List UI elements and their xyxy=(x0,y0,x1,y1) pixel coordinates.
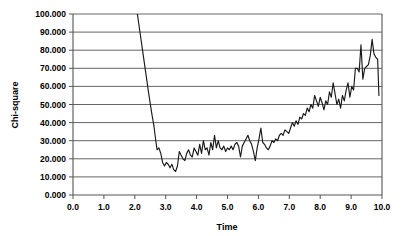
x-tick-label: 3.0 xyxy=(160,202,172,212)
x-tick-label: 10.0 xyxy=(374,202,391,212)
x-tick-label: 8.0 xyxy=(314,202,326,212)
y-axis-title: Chi-square xyxy=(10,81,20,128)
y-tick-label: 60.000 xyxy=(40,81,66,91)
x-tick-label: 1.0 xyxy=(98,202,110,212)
y-tick-label: 70.000 xyxy=(40,63,66,73)
y-tick-label: 20.000 xyxy=(40,154,66,164)
x-tick-label: 5.0 xyxy=(222,202,234,212)
chi-square-line-chart: 0.00010.00020.00030.00040.00050.00060.00… xyxy=(0,0,405,236)
x-tick-label: 2.0 xyxy=(129,202,141,212)
chart-container: 0.00010.00020.00030.00040.00050.00060.00… xyxy=(0,0,405,236)
y-tick-label: 30.000 xyxy=(40,136,66,146)
y-tick-label: 40.000 xyxy=(40,118,66,128)
x-axis-ticks: 0.01.02.03.04.05.06.07.08.09.010.0 xyxy=(67,195,390,212)
y-tick-label: 10.000 xyxy=(40,172,66,182)
y-tick-label: 90.000 xyxy=(40,27,66,37)
x-tick-label: 4.0 xyxy=(191,202,203,212)
y-tick-label: 50.000 xyxy=(40,100,66,110)
y-tick-label: 0.000 xyxy=(45,190,67,200)
x-tick-label: 9.0 xyxy=(345,202,357,212)
x-tick-label: 0.0 xyxy=(67,202,79,212)
x-tick-label: 7.0 xyxy=(283,202,295,212)
x-axis-title: Time xyxy=(217,222,238,232)
y-tick-label: 100.000 xyxy=(35,9,66,19)
y-tick-label: 80.000 xyxy=(40,45,66,55)
y-axis-ticks: 0.00010.00020.00030.00040.00050.00060.00… xyxy=(35,9,73,200)
x-tick-label: 6.0 xyxy=(252,202,264,212)
